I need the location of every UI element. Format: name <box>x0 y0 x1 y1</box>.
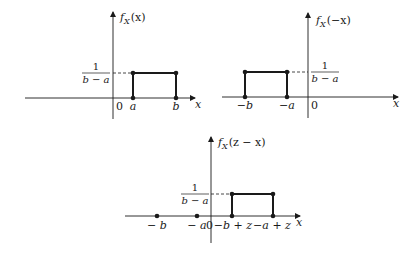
origin-label: 0 <box>206 219 213 232</box>
point-neg-a-plus-z-top <box>271 192 276 197</box>
height-numerator: 1 <box>93 61 99 72</box>
tick-label-neg-b: −b <box>237 99 253 112</box>
x-axis-label: x <box>296 216 303 229</box>
height-denominator: b − a <box>181 195 208 206</box>
panel-f-z-minus-x: fX(z − x) 1 b − a − b − a 0 −b + z −a + … <box>125 136 303 243</box>
uniform-pdf-rect <box>133 73 176 98</box>
tick-label-neg-a: − a <box>187 219 206 232</box>
tick-label-neg-b: − b <box>147 219 167 232</box>
origin-label: 0 <box>311 99 318 112</box>
point-neg-b <box>155 214 160 219</box>
tick-label-neg-b-plus-z: −b + z <box>214 219 252 232</box>
point-neg-b-plus-z-bottom <box>230 214 235 219</box>
tick-label-a: a <box>130 100 137 113</box>
panel-fx: fX(x) 1 b − a 0 a b x <box>25 11 202 119</box>
point-neg-a-top <box>285 70 290 75</box>
height-denominator: b − a <box>311 73 338 84</box>
function-label: fX(−x) <box>315 14 351 29</box>
uniform-pdf-rect <box>232 194 273 216</box>
point-neg-a <box>195 214 200 219</box>
tick-label-neg-a-plus-z: −a + z <box>253 219 291 232</box>
point-neg-b-plus-z-top <box>230 192 235 197</box>
function-label: fX(z − x) <box>217 136 266 151</box>
x-axis-label: x <box>195 98 202 111</box>
uniform-pdf-rect <box>245 72 287 97</box>
point-neg-b-top <box>243 70 248 75</box>
diagram-canvas: fX(x) 1 b − a 0 a b x fX(−x) 1 b − a 0 −… <box>0 0 420 254</box>
tick-label-neg-a: −a <box>279 99 295 112</box>
height-denominator: b − a <box>82 74 109 85</box>
height-numerator: 1 <box>192 182 198 193</box>
panel-f-neg-x: fX(−x) 1 b − a 0 −b −a x <box>222 13 400 118</box>
height-numerator: 1 <box>322 60 328 71</box>
tick-label-b: b <box>172 100 179 113</box>
point-a-top <box>131 71 136 76</box>
point-neg-a-plus-z-bottom <box>271 214 276 219</box>
function-label: fX(x) <box>119 11 146 26</box>
x-axis-label: x <box>393 97 400 110</box>
point-b-top <box>174 71 179 76</box>
origin-label: 0 <box>116 100 123 113</box>
